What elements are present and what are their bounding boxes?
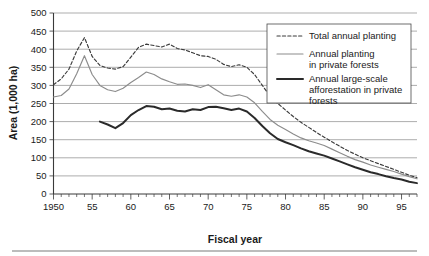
x-tick-label: 60 bbox=[126, 201, 137, 212]
legend-label-1-0: Annual planting bbox=[309, 48, 375, 59]
line-chart: 050100150200250300350400450500 195055606… bbox=[0, 0, 429, 256]
y-tick-label: 200 bbox=[31, 116, 47, 127]
y-tick-label: 400 bbox=[31, 44, 47, 55]
x-tick-label: 1950 bbox=[43, 201, 64, 212]
y-tick-label: 300 bbox=[31, 80, 47, 91]
x-tick-label: 65 bbox=[164, 201, 175, 212]
legend-label-2-2: forests bbox=[309, 95, 338, 106]
y-tick-label: 0 bbox=[41, 188, 46, 199]
x-tick-label: 75 bbox=[242, 201, 253, 212]
legend: Total annual plantingAnnual plantingin p… bbox=[267, 24, 411, 106]
x-tick-label: 90 bbox=[358, 201, 369, 212]
legend-label-2-0: Annual large-scale bbox=[309, 73, 388, 84]
y-tick-label: 50 bbox=[36, 170, 47, 181]
y-tick-label: 100 bbox=[31, 152, 47, 163]
legend-label-0-0: Total annual planting bbox=[309, 30, 396, 41]
x-tick-label: 85 bbox=[319, 201, 330, 212]
y-tick-label: 350 bbox=[31, 62, 47, 73]
chart-figure: 050100150200250300350400450500 195055606… bbox=[0, 0, 429, 256]
legend-label-1-1: in private forests bbox=[309, 59, 379, 70]
x-tick-label: 70 bbox=[203, 201, 214, 212]
x-tick-label: 80 bbox=[280, 201, 291, 212]
x-tick-label: 55 bbox=[87, 201, 98, 212]
x-tick-label: 95 bbox=[396, 201, 407, 212]
y-tick-label: 450 bbox=[31, 26, 47, 37]
legend-label-2-1: afforestation in private bbox=[309, 84, 402, 95]
y-tick-label: 150 bbox=[31, 134, 47, 145]
y-tick-label: 250 bbox=[31, 98, 47, 109]
y-axis-title: Area (1,000 ha) bbox=[7, 66, 19, 141]
y-tick-label: 500 bbox=[31, 7, 47, 18]
x-axis-title: Fiscal year bbox=[208, 233, 262, 245]
